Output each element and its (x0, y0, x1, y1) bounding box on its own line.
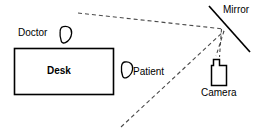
sightline-patient-to-mirror (121, 31, 224, 127)
diagram-vector-layer (0, 0, 265, 129)
label-mirror: Mirror (223, 4, 249, 15)
sightline-doctor-to-mirror (78, 13, 224, 29)
doctor-figure-icon (60, 26, 72, 43)
camera-body-icon (212, 60, 227, 86)
label-desk: Desk (47, 65, 71, 76)
sightline-mirror-to-camera (220, 29, 222, 57)
patient-figure-icon (121, 62, 132, 78)
diagram-canvas: Doctor Desk Patient Mirror Camera (0, 0, 265, 129)
label-doctor: Doctor (18, 27, 47, 38)
label-camera: Camera (201, 87, 237, 98)
label-patient: Patient (133, 66, 164, 77)
